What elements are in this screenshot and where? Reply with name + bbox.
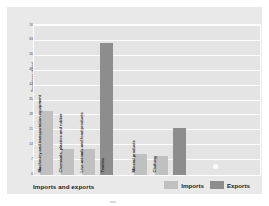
y-tick-label: 28 [17, 113, 33, 116]
y-tick-label: 7 [17, 158, 33, 161]
gridline [34, 85, 260, 86]
y-tick-label: 70 [17, 24, 33, 27]
gridline [34, 70, 260, 71]
plot-frame: Machinery and transportation equipmentCh… [33, 24, 261, 176]
bar-category-label: Mineral products [132, 140, 136, 172]
bar-category-label: Machinery and transportation equipment [38, 95, 42, 172]
gridline [34, 100, 260, 101]
chart-card: 07142128354249566370 Percentage of total… [7, 7, 262, 194]
legend-item[interactable]: Imports [164, 181, 204, 189]
legend-swatch-imports [164, 181, 178, 189]
chart-legend: ImportsExports [164, 181, 250, 189]
y-tick-label: 0 [17, 173, 33, 176]
bar-category-label: Chemicals, plastics and rubber [59, 113, 63, 172]
y-tick-label: 14 [17, 143, 33, 146]
bar[interactable] [173, 128, 186, 175]
gridline [34, 25, 260, 26]
gridline [34, 144, 260, 145]
gridline [34, 114, 260, 115]
bar[interactable] [100, 43, 113, 175]
y-tick-label: 21 [17, 128, 33, 131]
legend-label: Imports [181, 182, 204, 189]
bar-category-label: Live animals and food products [80, 112, 84, 172]
gridline [34, 55, 260, 56]
page-artifact [110, 201, 116, 203]
legend-swatch-exports [210, 181, 224, 189]
plot-area: Machinery and transportation equipmentCh… [34, 25, 260, 175]
legend-item[interactable]: Exports [210, 181, 250, 189]
gridline [34, 129, 260, 130]
bar-category-label: Clothing [153, 156, 157, 172]
gridline [34, 40, 260, 41]
legend-label: Exports [227, 182, 250, 189]
y-tick-label: 63 [17, 39, 33, 42]
chart-figure: 07142128354249566370 Percentage of total… [0, 0, 269, 206]
chart-title: Imports and exports [33, 183, 94, 190]
bar-category-label: Textiles [101, 157, 105, 172]
image-artifact-speck [213, 164, 218, 169]
